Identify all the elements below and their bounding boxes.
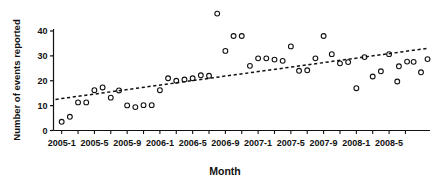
x-tick-label: 2007-5 [277,138,305,148]
data-point [397,64,402,69]
x-tick-label: 2008-1 [342,138,370,148]
data-point [141,103,146,108]
y-axis-title: Number of events reported [11,19,22,141]
data-point [190,76,195,81]
data-point [313,56,318,61]
data-point [149,103,154,108]
data-point [280,58,285,63]
data-point [125,103,130,108]
x-tick-label: 2007-1 [244,138,272,148]
data-point [207,73,212,78]
data-point [223,49,228,54]
data-point [198,73,203,78]
data-point [346,60,351,65]
x-tick-label: 2007-9 [310,138,338,148]
data-point [215,11,220,16]
data-point [405,59,410,64]
chart-canvas: 010203040 2005-12005-52005-92006-12006-5… [0,0,441,183]
y-tick-label: 20 [37,76,47,86]
x-tick-label: 2005-5 [80,138,108,148]
data-point [133,105,138,110]
data-point [158,88,163,93]
data-point [76,100,81,105]
data-point [84,100,89,105]
data-point [256,56,261,61]
data-point [248,63,253,68]
x-tick-label: 2006-1 [146,138,174,148]
scatter-chart: 010203040 2005-12005-52005-92006-12006-5… [0,0,441,183]
data-point [419,70,424,75]
x-axis-ticks: 2005-12005-52005-92006-12006-52006-92007… [48,131,406,148]
data-point [354,86,359,91]
data-point [321,34,326,39]
data-point [378,69,383,74]
data-point [425,57,430,62]
y-axis-ticks: 010203040 [37,26,53,136]
data-point [297,68,302,73]
data-point [92,88,97,93]
data-point [272,57,277,62]
data-point [329,52,334,57]
data-point [59,119,64,124]
data-point [305,68,310,73]
data-point [67,114,72,119]
data-point [108,95,113,100]
data-point [264,56,269,61]
y-tick-label: 30 [37,51,47,61]
x-tick-label: 2006-5 [179,138,207,148]
data-point [411,59,416,64]
data-point [288,44,293,49]
y-tick-label: 0 [42,126,47,136]
x-tick-label: 2006-9 [211,138,239,148]
data-point [239,34,244,39]
x-tick-label: 2008-5 [375,138,403,148]
data-point [370,74,375,79]
y-tick-label: 10 [37,101,47,111]
data-point [166,76,171,81]
data-point [338,61,343,66]
data-point [100,85,105,90]
trend-line [56,48,428,99]
data-point [395,79,400,84]
data-point [231,34,236,39]
x-tick-label: 2005-9 [113,138,141,148]
axes [54,29,431,131]
x-tick-label: 2005-1 [48,138,76,148]
trend-line-segment [56,48,428,99]
y-tick-label: 40 [37,26,47,36]
x-axis-title: Month [209,165,241,177]
data-points [59,11,430,124]
